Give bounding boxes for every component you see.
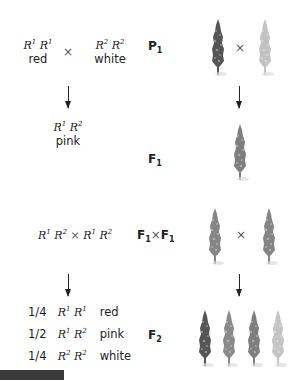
f2-generation-label: F2 xyxy=(148,328,162,344)
f2-ratio-row: 1/4 R1 R1red xyxy=(28,305,131,327)
f1-phenotype: pink xyxy=(44,134,92,148)
plant-pink-icon xyxy=(243,308,265,368)
p1-parent2-phenotype: white xyxy=(88,52,132,66)
arrow-down-icon xyxy=(68,274,69,296)
plant-white-icon xyxy=(267,308,289,368)
f1-generation-label: F1 xyxy=(148,152,162,168)
plant-red-icon xyxy=(207,17,229,77)
p1-parent1-genotype: R1 R1 xyxy=(14,38,62,52)
f2-ratio-row: 1/2 R1 R2pink xyxy=(28,327,131,349)
plant-red-icon xyxy=(194,308,216,368)
arrow-down-icon xyxy=(239,274,240,296)
plant-pink-icon xyxy=(204,206,226,266)
p1-generation-label: P1 xyxy=(148,39,162,55)
arrow-down-icon xyxy=(239,86,240,108)
arrow-down-icon xyxy=(68,86,69,108)
p1-parent2: R2 R2 white xyxy=(88,38,132,66)
f1-plant-cross-symbol: × xyxy=(236,228,246,242)
page-edge-bar xyxy=(0,370,64,380)
plant-pink-icon xyxy=(218,308,240,368)
f1-genotype: R1 R2 xyxy=(44,120,92,134)
p1-parent1: R1 R1 red xyxy=(14,38,62,66)
p1-parent2-genotype: R2 R2 xyxy=(88,38,132,52)
p1-parent1-phenotype: red xyxy=(14,52,62,66)
f1-cross-genotypes: R1 R2 × R1 R2 xyxy=(38,228,112,242)
f2-ratio-row: 1/4 R2 R2white xyxy=(28,349,131,371)
f2-ratio-list: 1/4 R1 R1red 1/2 R1 R2pink 1/4 R2 R2whit… xyxy=(28,305,131,371)
p1-cross-symbol: × xyxy=(63,45,73,59)
f1-cross-generation-label: F1×F1 xyxy=(137,228,175,244)
plant-pink-icon xyxy=(258,206,280,266)
p1-plant-cross-symbol: × xyxy=(235,41,245,55)
plant-pink-icon xyxy=(229,122,251,182)
f1-offspring: R1 R2 pink xyxy=(44,120,92,148)
plant-white-icon xyxy=(254,17,276,77)
